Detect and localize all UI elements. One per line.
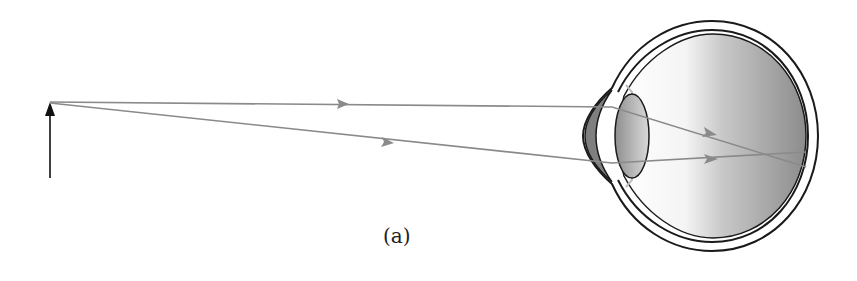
eye-optics-diagram (0, 0, 857, 281)
eyeball (583, 21, 818, 251)
object-arrow (45, 102, 55, 178)
lens (615, 94, 649, 178)
figure-caption: (a) (383, 224, 411, 248)
